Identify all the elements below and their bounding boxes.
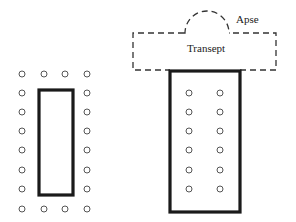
transept-label: Transept <box>187 42 225 54</box>
column-icon <box>62 71 68 77</box>
column-icon <box>186 128 192 134</box>
column-icon <box>19 128 25 134</box>
left-plan <box>19 71 90 212</box>
column-icon <box>19 90 25 96</box>
column-icon <box>84 90 90 96</box>
column-icon <box>186 90 192 96</box>
column-icon <box>41 71 47 77</box>
column-icon <box>84 206 90 212</box>
column-icon <box>19 109 25 115</box>
column-icon <box>186 109 192 115</box>
column-icon <box>19 147 25 153</box>
column-icon <box>217 147 223 153</box>
nave-wall <box>170 71 240 212</box>
column-icon <box>217 109 223 115</box>
column-icon <box>217 90 223 96</box>
column-icon <box>19 167 25 173</box>
column-icon <box>62 206 68 212</box>
column-icon <box>186 147 192 153</box>
column-icon <box>217 128 223 134</box>
column-icon <box>217 167 223 173</box>
column-icon <box>84 109 90 115</box>
column-icon <box>84 147 90 153</box>
column-icon <box>186 167 192 173</box>
column-icon <box>84 186 90 192</box>
column-icon <box>217 186 223 192</box>
apse-outline <box>184 11 230 33</box>
cella-wall <box>39 90 73 195</box>
column-icon <box>41 206 47 212</box>
floor-plan-diagram: Apse Transept <box>0 0 296 222</box>
column-icon <box>84 167 90 173</box>
column-icon <box>19 186 25 192</box>
column-icon <box>186 186 192 192</box>
column-icon <box>19 71 25 77</box>
right-plan: Apse Transept <box>133 11 276 212</box>
column-icon <box>84 128 90 134</box>
apse-label: Apse <box>236 13 259 25</box>
column-icon <box>19 206 25 212</box>
column-icon <box>84 71 90 77</box>
